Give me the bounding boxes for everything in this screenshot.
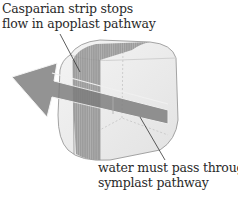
casparian-label-line1: Casparian strip stops <box>2 1 156 16</box>
water-label-line1: water must pass through <box>98 160 238 175</box>
casparian-label-line2: flow in apoplast pathway <box>2 16 156 31</box>
symplast-pathway-label: water must pass through symplast pathway <box>98 160 238 190</box>
water-label-line2: symplast pathway <box>98 175 238 190</box>
casparian-strip-label: Casparian strip stops flow in apoplast p… <box>2 1 156 31</box>
